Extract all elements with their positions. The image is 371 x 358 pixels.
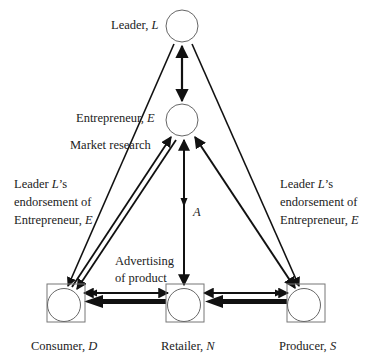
endorsement-left-line1: Leader L’s xyxy=(14,175,93,193)
label-leader-name: Leader, xyxy=(111,18,151,32)
double-head-producer xyxy=(275,290,283,297)
label-entrepreneur: Entrepreneur, E xyxy=(76,111,155,126)
edge-leader-consumer xyxy=(68,44,174,286)
node-entrepreneur xyxy=(166,104,198,136)
label-leader: Leader, L xyxy=(111,18,158,33)
label-producer-name: Producer, xyxy=(279,339,330,353)
label-advertising: Advertising of product xyxy=(115,253,174,287)
label-consumer-name: Consumer, xyxy=(31,339,88,353)
arrow-mid-a xyxy=(181,198,188,207)
label-retailer: Retailer, N xyxy=(161,339,215,354)
thick-arrowhead-consumer xyxy=(84,295,103,308)
label-market-research: Market research xyxy=(70,138,151,153)
edge-leader-producer xyxy=(192,44,299,286)
double-head-consumer xyxy=(89,290,97,297)
node-leader xyxy=(166,10,198,42)
label-retailer-name: Retailer, xyxy=(161,339,206,353)
label-a-symbol: A xyxy=(193,205,201,219)
advertising-line2: of product xyxy=(115,270,174,287)
label-endorsement-right: Leader L’s endorsement of Entrepreneur, … xyxy=(280,175,359,229)
advertising-line1: Advertising xyxy=(115,253,174,270)
label-entrepreneur-name: Entrepreneur, xyxy=(76,111,147,125)
endorsement-right-line1: Leader L’s xyxy=(280,175,359,193)
endorsement-right-line2: endorsement of xyxy=(280,193,359,211)
label-entrepreneur-symbol: E xyxy=(147,111,155,125)
endorsement-left-line3: Entrepreneur, E xyxy=(14,211,93,229)
label-a: A xyxy=(193,205,201,220)
node-retailer xyxy=(168,289,201,322)
node-consumer xyxy=(48,289,81,322)
label-producer-symbol: S xyxy=(330,339,336,353)
label-endorsement-left: Leader L’s endorsement of Entrepreneur, … xyxy=(14,175,93,229)
endorsement-right-line3: Entrepreneur, E xyxy=(280,211,359,229)
endorsement-left-line2: endorsement of xyxy=(14,193,93,211)
node-producer xyxy=(288,289,321,322)
label-leader-symbol: L xyxy=(151,18,158,32)
label-consumer: Consumer, D xyxy=(31,339,97,354)
label-consumer-symbol: D xyxy=(88,339,97,353)
label-producer: Producer, S xyxy=(279,339,336,354)
thick-arrowhead-retailer xyxy=(205,295,223,308)
label-retailer-symbol: N xyxy=(206,339,214,353)
